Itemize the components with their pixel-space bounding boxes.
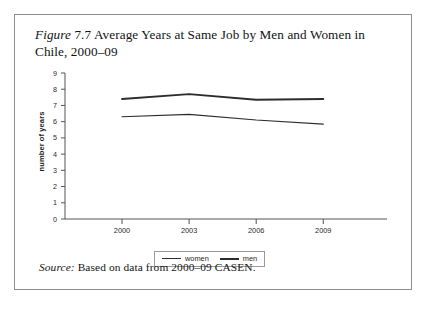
source-note: Source: Based on data from 2000–09 CASEN… bbox=[39, 261, 256, 273]
svg-text:5: 5 bbox=[53, 133, 57, 142]
svg-text:4: 4 bbox=[53, 150, 57, 159]
source-note-label: Source: bbox=[39, 261, 75, 273]
svg-text:2009: 2009 bbox=[315, 226, 331, 235]
series-line-women bbox=[122, 114, 323, 124]
svg-text:2006: 2006 bbox=[248, 226, 264, 235]
svg-text:2003: 2003 bbox=[181, 226, 197, 235]
figure-title: Figure 7.7 Average Years at Same Job by … bbox=[35, 27, 393, 60]
x-axis-ticks: 2000200320062009 bbox=[114, 219, 332, 235]
y-axis-ticks: 0123456789 bbox=[53, 71, 65, 224]
svg-text:9: 9 bbox=[53, 71, 57, 78]
svg-text:2000: 2000 bbox=[114, 226, 130, 235]
legend-swatch-men-icon bbox=[220, 258, 239, 260]
series-line-men bbox=[122, 94, 323, 100]
chart-plot-area: 0123456789 2000200320062009 bbox=[35, 71, 395, 239]
svg-text:6: 6 bbox=[53, 117, 57, 126]
svg-text:3: 3 bbox=[53, 166, 57, 175]
svg-text:0: 0 bbox=[53, 215, 57, 224]
svg-text:1: 1 bbox=[53, 198, 57, 207]
source-note-text: Based on data from 2000–09 CASEN. bbox=[78, 261, 256, 273]
svg-text:2: 2 bbox=[53, 182, 57, 191]
svg-text:8: 8 bbox=[53, 85, 57, 94]
figure-frame: Figure 7.7 Average Years at Same Job by … bbox=[14, 14, 412, 290]
line-chart: 0123456789 2000200320062009 bbox=[35, 71, 395, 239]
svg-text:7: 7 bbox=[53, 101, 57, 110]
figure-title-number: 7.7 bbox=[74, 27, 91, 42]
figure-title-label: Figure bbox=[35, 27, 71, 42]
legend-swatch-women-icon bbox=[162, 258, 181, 259]
